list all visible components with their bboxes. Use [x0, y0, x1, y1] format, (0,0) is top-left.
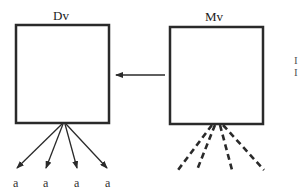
mv-label: Mv	[205, 10, 223, 23]
output-label-4: a	[105, 177, 110, 189]
cropped-edge-mark-1: I	[294, 55, 298, 66]
solid-output-arrows	[17, 124, 107, 168]
mv-box	[170, 27, 263, 124]
dashed-output-lines	[178, 125, 264, 170]
output-label-1: a	[13, 177, 18, 189]
dv-box	[16, 25, 109, 123]
output-label-3: a	[74, 177, 79, 189]
dv-label: Dv	[53, 9, 69, 22]
cropped-edge-mark-2: I	[294, 67, 298, 78]
diagram-canvas	[0, 0, 299, 195]
output-label-2: a	[43, 177, 48, 189]
